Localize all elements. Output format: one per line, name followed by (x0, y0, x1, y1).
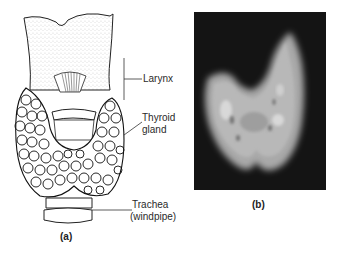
label-trachea-line1: Trachea (132, 199, 168, 210)
label-trachea-line2: (windpipe) (130, 211, 176, 222)
thyroid-scan-image (194, 12, 326, 190)
label-larynx: Larynx (143, 73, 173, 84)
thyroid-scan-glow (194, 12, 326, 190)
caption-panel-b: (b) (252, 199, 265, 210)
label-thyroid-line1: Thyroid (142, 112, 175, 123)
caption-panel-a: (a) (60, 231, 72, 242)
label-thyroid-line2: gland (142, 124, 166, 135)
thyroid-gland-lobes (16, 88, 124, 197)
